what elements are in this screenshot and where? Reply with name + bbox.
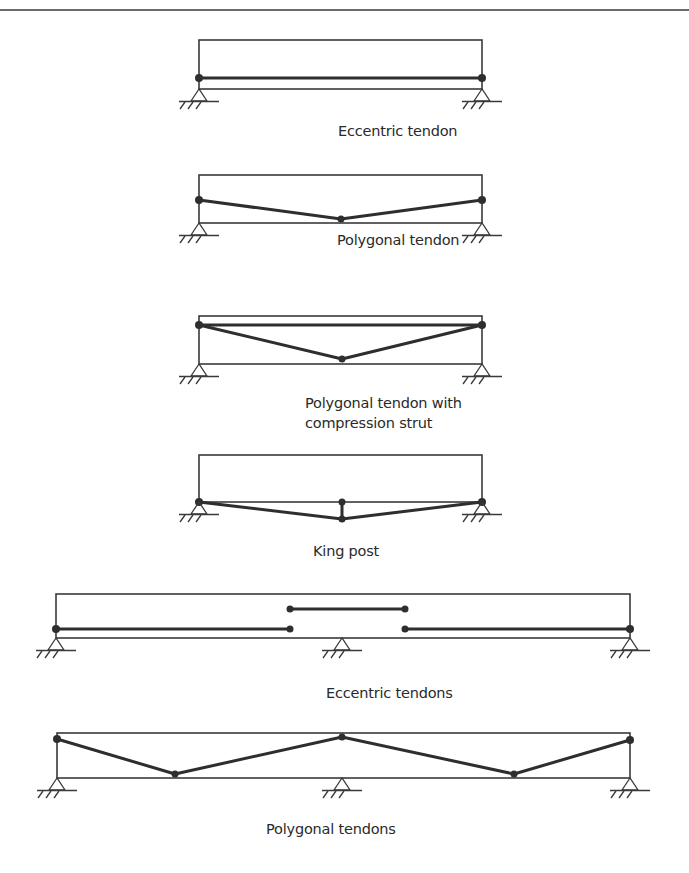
anchor — [402, 606, 409, 613]
pin-support-icon — [322, 638, 362, 658]
caption-king-post: King post — [313, 541, 379, 561]
pin-support-icon — [322, 778, 362, 798]
anchor-left — [195, 196, 203, 204]
anchor — [287, 606, 294, 613]
caption-eccentric-tendon: Eccentric tendon — [338, 121, 457, 141]
pin-support-icon — [179, 364, 219, 384]
pin-support-icon — [462, 364, 502, 384]
pin-support-icon — [610, 638, 650, 658]
pin-support-icon — [179, 89, 219, 109]
beam-outline — [199, 455, 482, 502]
post-top — [339, 499, 346, 506]
beam-outline — [199, 40, 482, 89]
tendon — [57, 737, 630, 774]
anchor-left — [195, 321, 203, 329]
deviator — [338, 216, 345, 223]
pin-support-icon — [36, 638, 76, 658]
caption-polygonal-tendon: Polygonal tendon — [337, 230, 459, 250]
caption-polygonal-tendon-strut-line1: Polygonal tendon with — [305, 393, 462, 413]
panel-polygonal-tendons — [37, 733, 650, 798]
anchor-right — [478, 74, 486, 82]
anchor — [402, 626, 409, 633]
anchor-right — [478, 196, 486, 204]
deviator — [511, 771, 518, 778]
pin-support-icon — [462, 89, 502, 109]
anchor-right — [478, 321, 486, 329]
anchor-left — [195, 74, 203, 82]
pin-support-icon — [37, 778, 77, 798]
anchor — [52, 625, 60, 633]
panel-polygonal-tendon-strut — [179, 316, 502, 384]
deviator — [172, 771, 179, 778]
anchor — [626, 625, 634, 633]
post-bottom — [339, 516, 346, 523]
caption-polygonal-tendon-strut-line2: compression strut — [305, 413, 432, 433]
tendon — [199, 325, 482, 359]
caption-eccentric-tendons: Eccentric tendons — [326, 683, 453, 703]
pin-support-icon — [610, 778, 650, 798]
caption-polygonal-tendons: Polygonal tendons — [266, 819, 396, 839]
anchor — [287, 626, 294, 633]
pin-support-icon — [462, 223, 502, 243]
beam-outline — [56, 594, 630, 638]
panel-king-post — [179, 455, 502, 523]
pin-support-icon — [179, 223, 219, 243]
panel-eccentric-tendon — [179, 40, 502, 109]
panel-eccentric-tendons — [36, 594, 650, 658]
deviator — [339, 356, 346, 363]
deviator — [339, 734, 346, 741]
anchor — [53, 735, 61, 743]
anchor — [626, 736, 634, 744]
